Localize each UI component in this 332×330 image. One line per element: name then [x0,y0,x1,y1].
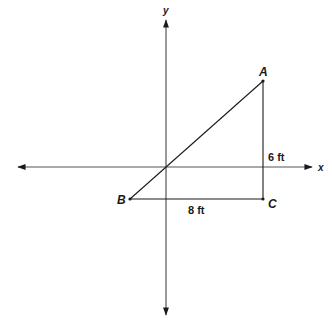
point-c-marker [261,197,264,200]
x-axis-label: x [317,162,324,173]
segment-ac-length-label: 6 ft [268,151,285,163]
point-a-marker [261,79,264,82]
y-axis-label: y [162,5,169,16]
diagram-canvas: y x A B C 6 ft 8 ft [0,0,332,330]
segment-bc-length-label: 8 ft [188,204,205,216]
point-b-label: B [117,193,126,207]
segment-ab-hypotenuse [130,81,263,199]
point-c-label: C [268,197,277,211]
point-a-label: A [258,65,268,79]
coordinate-plane: y x A B C 6 ft 8 ft [0,0,332,330]
point-b-marker [128,197,131,200]
